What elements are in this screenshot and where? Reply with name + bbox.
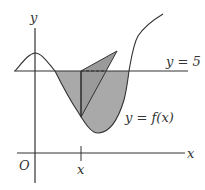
diagram-canvas: y x O x y = 5 y = f(x) (0, 0, 205, 190)
x-axis-label: x (187, 146, 195, 161)
y-axis-label: y (29, 10, 38, 25)
curve-label: y = f(x) (124, 110, 174, 125)
line-y5-label: y = 5 (165, 54, 201, 69)
x-tick-label: x (77, 162, 85, 177)
origin-label: O (19, 158, 30, 173)
